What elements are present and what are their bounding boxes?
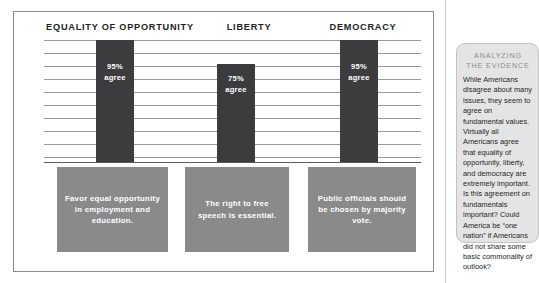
analyzing-the-evidence-callout: ANALYZING THE EVIDENCE While Americans d… (456, 43, 539, 243)
page-column-divider (445, 0, 446, 283)
category-heading-democracy: DEMOCRACY (301, 22, 425, 32)
bar-agree-equality: agree (104, 73, 125, 82)
category-heading-liberty: LIBERTY (190, 22, 308, 32)
analyzing-the-evidence-title: ANALYZING THE EVIDENCE (463, 51, 533, 70)
evidence-title-line-1: ANALYZING (474, 51, 522, 60)
bar-liberty: 75% agree (217, 64, 255, 162)
bar-agree-liberty: agree (225, 85, 246, 94)
bar-value-label-democracy: 95% agree (340, 62, 378, 83)
bar-agree-democracy: agree (348, 73, 369, 82)
bar-pct-equality: 95% (107, 62, 123, 71)
evidence-title-line-2: THE EVIDENCE (466, 61, 529, 70)
category-heading-equality: EQUALITY OF OPPORTUNITY (24, 22, 216, 32)
bar-value-label-equality: 95% agree (96, 62, 134, 83)
bar-pct-liberty: 75% (228, 74, 244, 83)
analyzing-the-evidence-body: While Americans disagree about many issu… (463, 75, 533, 273)
caption-box-liberty: The right to free speech is essential. (185, 167, 289, 252)
caption-box-democracy: Public officials should be chosen by maj… (308, 167, 416, 252)
bar-value-label-liberty: 75% agree (217, 74, 255, 95)
bar-pct-democracy: 95% (351, 62, 367, 71)
axis-baseline (44, 162, 421, 163)
bar-equality-of-opportunity: 95% agree (96, 40, 134, 162)
bar-democracy: 95% agree (340, 40, 378, 162)
caption-box-equality: Favor equal opportunity in employment an… (57, 167, 168, 252)
